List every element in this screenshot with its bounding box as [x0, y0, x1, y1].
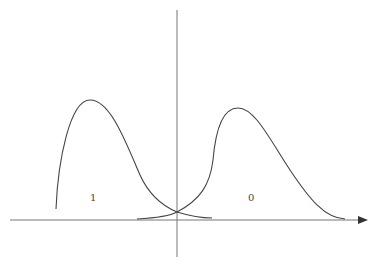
label-class-1: 1 — [90, 192, 96, 203]
curve-class-0 — [137, 108, 345, 219]
label-class-0: 0 — [248, 192, 254, 203]
curve-class-1 — [56, 100, 212, 218]
diagram-canvas: 1 0 — [0, 0, 380, 267]
axis-arrow-icon — [358, 216, 368, 224]
